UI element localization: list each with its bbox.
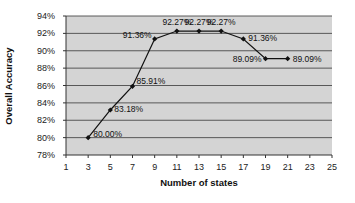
x-tick-label: 9	[152, 162, 157, 172]
x-tick-label: 15	[216, 162, 226, 172]
data-label: 91.36%	[123, 30, 152, 40]
data-label: 91.36%	[248, 33, 277, 43]
x-tick-label: 7	[130, 162, 135, 172]
data-label: 89.09%	[293, 54, 322, 64]
x-tick-label: 1	[63, 162, 68, 172]
y-tick-label: 82%	[37, 115, 55, 125]
x-axis-title: Number of states	[160, 177, 238, 188]
data-label: 92.27%	[207, 17, 236, 27]
y-axis-ticks: 78%80%82%84%86%88%90%92%94%	[37, 11, 66, 160]
x-tick-label: 5	[108, 162, 113, 172]
x-tick-label: 11	[172, 162, 181, 172]
y-tick-label: 78%	[37, 150, 55, 160]
data-label: 80.00%	[93, 129, 122, 139]
x-tick-label: 25	[327, 162, 337, 172]
y-axis-title: Overall Accuracy	[3, 47, 14, 125]
y-tick-label: 84%	[37, 98, 55, 108]
x-tick-label: 23	[305, 162, 315, 172]
x-axis-ticks: 135791113151719212325	[63, 155, 337, 172]
data-label: 83.18%	[114, 104, 143, 114]
y-tick-label: 90%	[37, 46, 55, 56]
x-tick-label: 13	[194, 162, 204, 172]
x-tick-label: 19	[260, 162, 270, 172]
y-tick-label: 80%	[37, 133, 55, 143]
data-label: 89.09%	[233, 54, 262, 64]
x-tick-label: 21	[283, 162, 293, 172]
y-tick-label: 92%	[37, 28, 55, 38]
line-chart: 78%80%82%84%86%88%90%92%94% 135791113151…	[0, 0, 355, 203]
y-tick-label: 94%	[37, 11, 55, 21]
x-tick-label: 3	[86, 162, 91, 172]
data-label: 85.91%	[137, 76, 166, 86]
y-tick-label: 88%	[37, 63, 55, 73]
x-tick-label: 17	[238, 162, 248, 172]
y-tick-label: 86%	[37, 81, 55, 91]
